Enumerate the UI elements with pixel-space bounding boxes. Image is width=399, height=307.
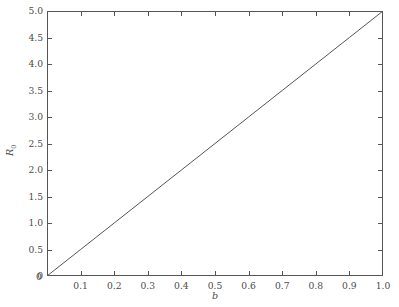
plot-area bbox=[47, 11, 383, 276]
y-tick-label: 3.0 bbox=[28, 112, 43, 121]
x-tick-label: 0.8 bbox=[308, 281, 323, 290]
x-tick-label: 0.4 bbox=[174, 281, 189, 290]
y-tick-label: 3.5 bbox=[28, 86, 43, 95]
y-tick-label: 0.5 bbox=[28, 245, 43, 254]
y-tick-label: 2.0 bbox=[28, 165, 43, 174]
y-tick-label: 2.5 bbox=[28, 139, 43, 148]
x-tick-label: 1.0 bbox=[376, 281, 391, 290]
y-axis-label-subscript: 0 bbox=[10, 145, 18, 149]
axes-and-data-svg bbox=[47, 11, 383, 276]
x-tick-label: 0.7 bbox=[275, 281, 290, 290]
figure-canvas: 00.51.01.52.02.53.03.54.04.55.0 0.10.20.… bbox=[0, 0, 399, 307]
x-tick-label: 0.2 bbox=[107, 281, 122, 290]
y-tick-label: 4.5 bbox=[28, 33, 43, 42]
origin-tick-label: 0 bbox=[36, 272, 42, 281]
y-tick-label: 4.0 bbox=[28, 59, 43, 68]
x-tick-label: 0.9 bbox=[342, 281, 357, 290]
x-tick-label: 0.5 bbox=[208, 281, 223, 290]
y-axis-label: R0 bbox=[5, 145, 17, 156]
x-axis-label: b bbox=[212, 291, 218, 301]
y-axis-label-base: R bbox=[4, 149, 15, 156]
data-line-series bbox=[47, 11, 383, 276]
y-tick-label: 5.0 bbox=[28, 6, 43, 15]
y-tick-label: 1.0 bbox=[28, 218, 43, 227]
x-tick-label: 0.3 bbox=[140, 281, 155, 290]
x-tick-label: 0.1 bbox=[73, 281, 88, 290]
y-tick-label: 1.5 bbox=[28, 192, 43, 201]
x-tick-label: 0.6 bbox=[241, 281, 256, 290]
